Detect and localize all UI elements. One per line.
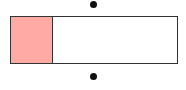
fraction-bar (10, 16, 178, 64)
unshaded-section (53, 17, 178, 63)
bottom-dot (90, 73, 97, 80)
top-dot (90, 1, 97, 8)
shaded-section (11, 17, 53, 63)
